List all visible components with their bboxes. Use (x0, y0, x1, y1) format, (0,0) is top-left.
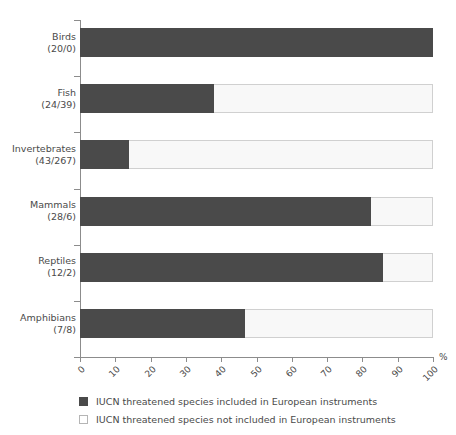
y-axis-category-name: Fish (41, 87, 76, 99)
y-axis-category-count: (7/8) (20, 324, 76, 336)
bar-row (80, 253, 433, 282)
bar-segment-included (80, 84, 214, 113)
legend-label-not-included: IUCN threatened species not included in … (96, 414, 396, 425)
bar-group (80, 20, 433, 357)
y-axis-category-count: (43/267) (12, 155, 76, 167)
y-axis-category-name: Reptiles (38, 255, 76, 267)
bar-row (80, 84, 433, 113)
stacked-bar-chart: Birds(20/0)Fish(24/39)Invertebrates(43/2… (0, 0, 456, 435)
chart-legend: IUCN threatened species included in Euro… (79, 392, 396, 428)
bar-segment-included (80, 28, 433, 57)
y-axis-category-name: Mammals (30, 199, 76, 211)
y-axis-category-name: Birds (47, 31, 76, 43)
bar-segment-included (80, 197, 371, 226)
x-axis-tick (398, 357, 399, 362)
y-axis-category-name: Amphibians (20, 312, 76, 324)
y-axis-category-name: Invertebrates (12, 143, 76, 155)
x-axis-tick (362, 357, 363, 362)
x-axis-tick (257, 357, 258, 362)
x-axis-tick (151, 357, 152, 362)
y-axis-category-count: (20/0) (47, 43, 76, 55)
x-axis-tick (327, 357, 328, 362)
x-axis-tick (80, 357, 81, 362)
bar-segment-included (80, 309, 245, 338)
y-axis-category-count: (12/2) (38, 267, 76, 279)
bar-segment-not-included (214, 84, 433, 113)
bar-row (80, 197, 433, 226)
y-axis-category-count: (28/6) (30, 211, 76, 223)
y-axis-category-label: Reptiles(12/2) (38, 255, 76, 279)
legend-item-not-included: IUCN threatened species not included in … (79, 410, 396, 428)
bar-segment-included (80, 140, 129, 169)
y-axis-category-label: Amphibians(7/8) (20, 312, 76, 336)
x-axis-tick (115, 357, 116, 362)
legend-item-included: IUCN threatened species included in Euro… (79, 392, 396, 410)
bar-row (80, 309, 433, 338)
legend-swatch-light-icon (79, 415, 88, 424)
x-axis-tick (433, 357, 434, 362)
bar-segment-not-included (383, 253, 433, 282)
y-axis-category-label: Fish(24/39) (41, 87, 76, 111)
y-axis-category-count: (24/39) (41, 99, 76, 111)
y-axis-category-label: Birds(20/0) (47, 31, 76, 55)
legend-swatch-dark-icon (79, 397, 88, 406)
bar-row (80, 28, 433, 57)
bar-segment-included (80, 253, 383, 282)
legend-label-included: IUCN threatened species included in Euro… (96, 396, 377, 407)
bar-segment-not-included (129, 140, 433, 169)
y-axis-category-label: Invertebrates(43/267) (12, 143, 76, 167)
x-axis-unit-label: % (439, 352, 448, 362)
bar-row (80, 140, 433, 169)
y-axis-category-label: Mammals(28/6) (30, 199, 76, 223)
bar-segment-not-included (371, 197, 433, 226)
x-axis-tick (186, 357, 187, 362)
x-axis-tick (221, 357, 222, 362)
bar-segment-not-included (245, 309, 433, 338)
x-axis-tick (292, 357, 293, 362)
